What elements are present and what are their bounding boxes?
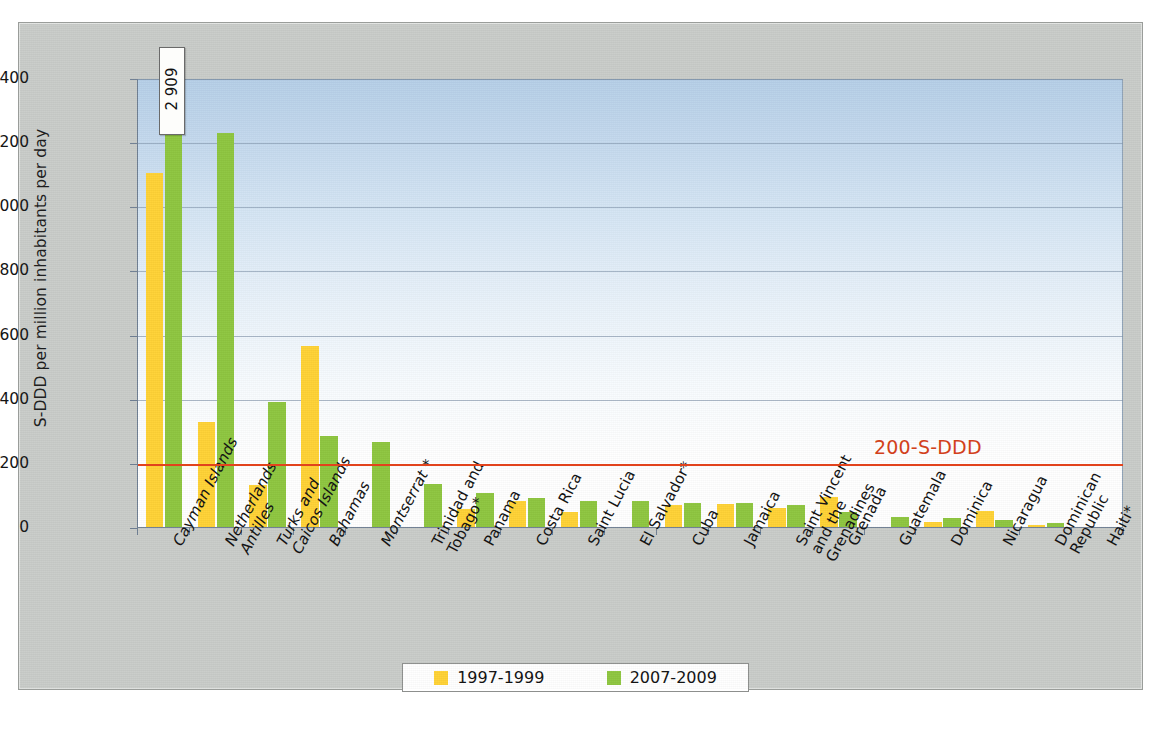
bar-series-2007-2009 xyxy=(372,442,390,527)
y-tick-mark xyxy=(130,400,137,401)
bar-group xyxy=(916,79,968,527)
legend-label: 1997-1999 xyxy=(457,668,544,687)
bar-series-1997-1999 xyxy=(1028,525,1046,527)
y-tick-label: 0 xyxy=(0,518,29,536)
legend-swatch xyxy=(607,671,621,685)
y-tick-mark xyxy=(130,271,137,272)
y-tick-mark xyxy=(130,528,137,529)
y-tick-mark xyxy=(130,207,137,208)
bar-group xyxy=(346,79,398,527)
bar-series-2007-2009 xyxy=(165,66,183,527)
y-tick-label: 600 xyxy=(0,326,29,344)
legend-item: 2007-2009 xyxy=(607,668,717,687)
bar-group xyxy=(605,79,657,527)
y-tick-mark xyxy=(130,464,137,465)
y-tick-label: 200 xyxy=(0,454,29,472)
y-tick-mark xyxy=(130,143,137,144)
bar-group xyxy=(709,79,761,527)
value-callout-text: 2 909 xyxy=(163,48,181,130)
y-tick-label: 1 400 xyxy=(0,69,29,87)
x-tick-mark xyxy=(137,528,138,535)
bar-group xyxy=(761,79,813,527)
bar-group xyxy=(553,79,605,527)
reference-line-label: 200-S-DDD xyxy=(874,436,982,458)
bar-series-1997-1999 xyxy=(146,173,164,527)
chart-legend: 1997-19992007-2009 xyxy=(402,663,749,692)
y-axis-title: S-DDD per million inhabitants per day xyxy=(32,78,50,478)
bar-group xyxy=(1020,79,1072,527)
legend-swatch xyxy=(434,671,448,685)
chart-figure: S-DDD per million inhabitants per day 20… xyxy=(18,22,1143,690)
y-tick-label: 800 xyxy=(0,261,29,279)
bar-group xyxy=(138,79,190,527)
plot-area xyxy=(137,79,1123,528)
y-tick-label: 1 200 xyxy=(0,133,29,151)
legend-label: 2007-2009 xyxy=(630,668,717,687)
reference-line-200 xyxy=(138,464,1123,466)
y-tick-label: 400 xyxy=(0,390,29,408)
y-tick-label: 1 000 xyxy=(0,197,29,215)
value-callout-cayman-islands: 2 909 xyxy=(159,47,185,135)
legend-item: 1997-1999 xyxy=(434,668,544,687)
y-tick-mark xyxy=(130,336,137,337)
bar-group xyxy=(501,79,553,527)
bar-group xyxy=(1072,79,1124,527)
bar-group xyxy=(968,79,1020,527)
y-tick-mark xyxy=(130,79,137,80)
bar-series-1997-1999 xyxy=(924,522,942,527)
bar-group xyxy=(865,79,917,527)
